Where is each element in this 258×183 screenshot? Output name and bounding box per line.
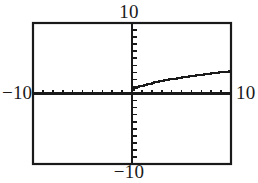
plot-area (0, 0, 258, 183)
graphing-calculator-figure: 10 −10 −10 10 (0, 0, 258, 183)
